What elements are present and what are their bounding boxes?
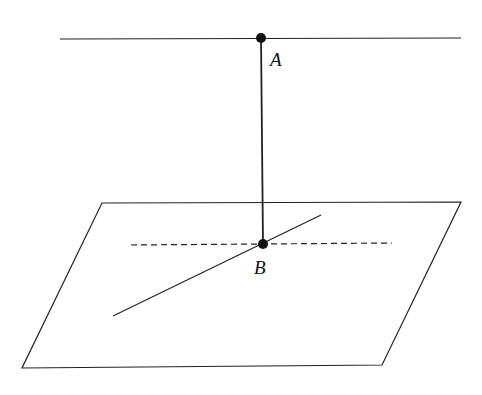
point-a-label: A (270, 50, 282, 69)
geometry-diagram: A B (0, 0, 482, 395)
plane-line-solid (113, 215, 321, 316)
plane (22, 202, 461, 368)
point-b-dot (258, 239, 268, 249)
point-a-dot (256, 33, 266, 43)
point-b-label: B (254, 258, 266, 277)
diagram-svg (0, 0, 482, 395)
perpendicular-segment-ab (261, 38, 263, 244)
